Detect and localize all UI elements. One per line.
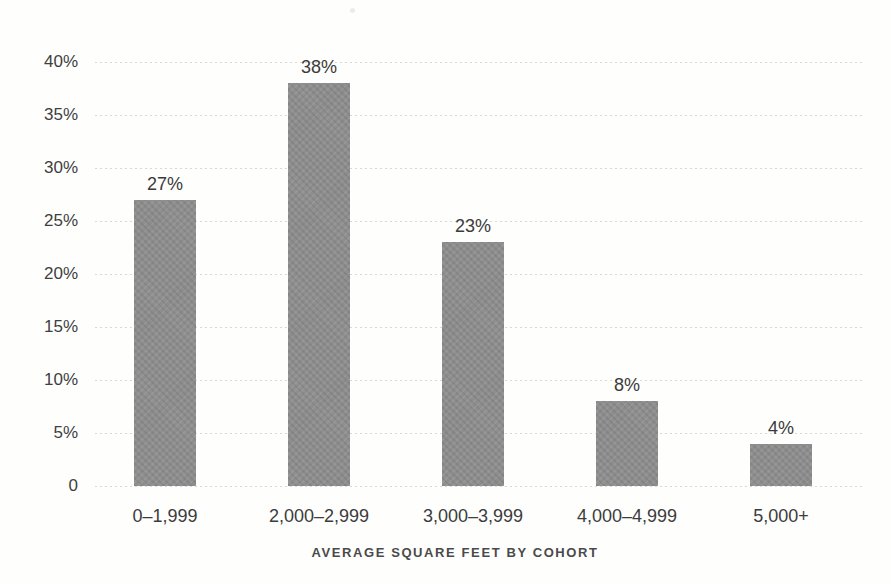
bar-value-label: 27% (115, 174, 215, 195)
y-tick-label: 30% (14, 158, 78, 178)
y-tick-label: 40% (14, 52, 78, 72)
y-tick-label: 20% (14, 264, 78, 284)
scan-speck (350, 8, 355, 13)
y-tick-label: 0 (14, 476, 78, 496)
x-tick-label: 0–1,999 (85, 506, 245, 527)
bar (442, 242, 504, 486)
bar (134, 200, 196, 486)
bar-value-label: 38% (269, 57, 369, 78)
y-tick-label: 10% (14, 370, 78, 390)
y-tick-label: 15% (14, 317, 78, 337)
bar-value-label: 8% (577, 375, 677, 396)
gridline (95, 115, 865, 116)
bar-value-label: 4% (731, 418, 831, 439)
y-tick-label: 25% (14, 211, 78, 231)
gridline (95, 168, 865, 169)
y-tick-label: 5% (14, 423, 78, 443)
x-tick-label: 3,000–3,999 (393, 506, 553, 527)
gridline (95, 62, 865, 63)
bar (750, 444, 812, 486)
x-tick-label: 2,000–2,999 (239, 506, 399, 527)
x-tick-label: 5,000+ (701, 506, 861, 527)
y-tick-label: 35% (14, 105, 78, 125)
bar (288, 83, 350, 486)
bar-value-label: 23% (423, 216, 523, 237)
x-tick-label: 4,000–4,999 (547, 506, 707, 527)
gridline (95, 486, 865, 487)
bar (596, 401, 658, 486)
x-axis-title: AVERAGE SQUARE FEET BY COHORT (20, 545, 890, 560)
bar-chart: 05%10%15%20%25%30%35%40% 27%0–1,99938%2,… (0, 0, 891, 584)
